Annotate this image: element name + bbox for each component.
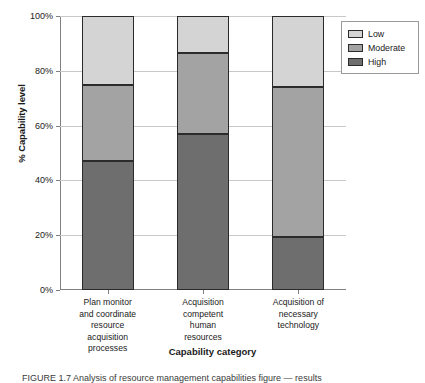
x-category-label-line: competent: [151, 309, 255, 321]
x-tick-mark: [298, 290, 299, 294]
x-category-label-line: acquisition: [56, 332, 160, 344]
legend-swatch-icon: [348, 58, 363, 66]
figure-caption: FIGURE 1.7 Analysis of resource manageme…: [22, 372, 352, 383]
chart-legend: LowModerateHigh: [341, 21, 419, 74]
x-category-label: Acquisition ofnecessarytechnology: [246, 297, 350, 332]
x-category-label-line: Plan monitor: [56, 297, 160, 309]
x-tick-mark: [108, 290, 109, 294]
bar-segment-high[interactable]: [82, 161, 134, 290]
y-tick-label: 0%: [40, 285, 53, 295]
legend-swatch-icon: [348, 30, 363, 38]
x-category-label-line: resources: [151, 332, 255, 344]
bar-segment-moderate[interactable]: [82, 85, 134, 162]
x-tick-mark: [203, 290, 204, 294]
x-category-label-line: Acquisition of: [246, 297, 350, 309]
y-axis-title: % Capability level: [16, 59, 27, 189]
x-category-label-line: human: [151, 320, 255, 332]
x-category-label-line: resource: [56, 320, 160, 332]
y-tick-label: 100%: [30, 11, 53, 21]
x-category-label: Acquisitioncompetenthumanresources: [151, 297, 255, 343]
legend-item-low[interactable]: Low: [348, 27, 413, 40]
y-tick-label: 80%: [35, 66, 53, 76]
bar-stack[interactable]: [82, 16, 134, 290]
y-tick-mark: [56, 290, 60, 291]
y-tick-label: 60%: [35, 121, 53, 131]
legend-label: High: [368, 57, 386, 67]
x-axis-title: Capability category: [0, 346, 425, 357]
legend-label: Low: [368, 29, 384, 39]
x-category-label-line: Acquisition: [151, 297, 255, 309]
legend-item-high[interactable]: High: [348, 55, 413, 68]
y-tick-label: 40%: [35, 175, 53, 185]
bar-segment-moderate[interactable]: [272, 87, 324, 236]
bars-layer: [60, 16, 346, 290]
bar-segment-high[interactable]: [272, 237, 324, 290]
legend-item-moderate[interactable]: Moderate: [348, 41, 413, 54]
bar-segment-high[interactable]: [177, 134, 229, 290]
x-category-label-line: and coordinate: [56, 309, 160, 321]
bar-segment-moderate[interactable]: [177, 53, 229, 134]
bar-segment-low[interactable]: [272, 16, 324, 87]
legend-swatch-icon: [348, 44, 363, 52]
figure-container: % Capability level 0%20%40%60%80%100% Pl…: [0, 0, 425, 383]
x-category-label-line: technology: [246, 320, 350, 332]
bar-segment-low[interactable]: [177, 16, 229, 53]
bar-stack[interactable]: [177, 16, 229, 290]
bar-segment-low[interactable]: [82, 16, 134, 85]
y-tick-label: 20%: [35, 230, 53, 240]
x-category-label-line: necessary: [246, 309, 350, 321]
legend-label: Moderate: [368, 43, 405, 53]
plot-area: 0%20%40%60%80%100%: [60, 16, 346, 290]
bar-stack[interactable]: [272, 16, 324, 290]
